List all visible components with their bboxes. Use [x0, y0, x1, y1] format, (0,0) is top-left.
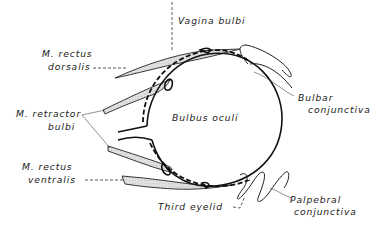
label-palpebral-conjunctiva-line2: conjunctiva — [294, 206, 357, 217]
label-bulbar-conjunctiva-line1: Bulbar — [298, 92, 334, 103]
muscle-rectus-ventralis — [122, 176, 232, 189]
label-retractor-bulbi-line1: M. retractor — [16, 108, 81, 119]
label-third-eyelid: Third eyelid — [158, 201, 223, 212]
label-bulbus-oculi: Bulbus oculi — [172, 112, 238, 123]
label-retractor-bulbi-line2: bulbi — [48, 121, 75, 132]
bulbar-conjunctiva-fold — [240, 45, 292, 88]
eye-anatomy-diagram: Vagina bulbi M. rectus dorsalis M. retra… — [0, 0, 387, 225]
label-vagina-bulbi: Vagina bulbi — [178, 15, 245, 26]
palpebral-conjunctiva-fold — [238, 172, 289, 202]
label-bulbar-conjunctiva-line2: conjunctiva — [308, 104, 371, 115]
label-rectus-ventralis-line2: ventralis — [28, 174, 76, 185]
label-rectus-dorsalis-line2: dorsalis — [48, 61, 91, 72]
label-palpebral-conjunctiva-line1: Palpebral — [290, 194, 341, 205]
label-rectus-ventralis-line1: M. rectus — [22, 161, 73, 172]
label-rectus-dorsalis-line1: M. rectus — [42, 48, 93, 59]
